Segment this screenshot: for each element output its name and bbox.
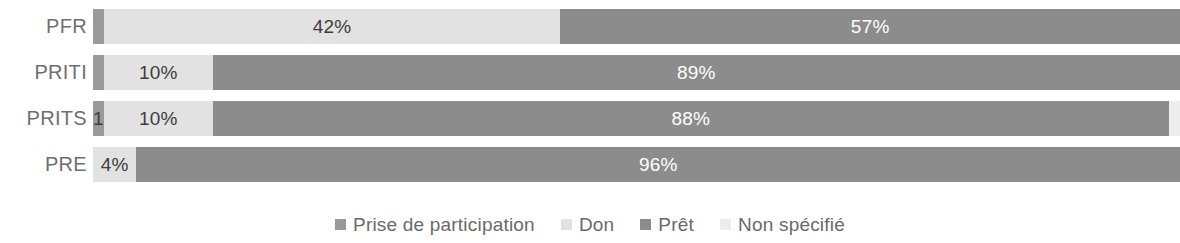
bar-track: 10%89% <box>93 55 1180 90</box>
segment-value-label: 96% <box>639 155 678 174</box>
legend-label: Non spécifié <box>738 215 845 234</box>
segment-value-label: 57% <box>851 17 890 36</box>
legend-swatch-icon <box>561 219 572 230</box>
bar-segment <box>93 55 104 90</box>
bar-track: 42%57% <box>93 9 1180 44</box>
bar-segment: 88% <box>213 101 1170 136</box>
bar-segment <box>93 9 104 44</box>
bar-row: PRITS1%10%88% <box>0 95 1180 141</box>
bar-track: 1%10%88% <box>93 101 1180 136</box>
legend-item[interactable]: Prêt <box>640 215 694 234</box>
bar-row: PFR42%57% <box>0 3 1180 49</box>
chart-plot-area: PFR42%57%PRITI10%89%PRITS1%10%88%PRE4%96… <box>0 0 1180 190</box>
bar-segment <box>1169 101 1180 136</box>
segment-value-label: 89% <box>677 63 716 82</box>
segment-value-label: 88% <box>672 109 711 128</box>
legend-label: Prise de participation <box>353 215 535 234</box>
segment-value-label: 42% <box>313 17 352 36</box>
bar-segment: 57% <box>560 9 1180 44</box>
chart-legend: Prise de participationDonPrêtNon spécifi… <box>0 205 1180 243</box>
bar-segment: 10% <box>104 55 213 90</box>
category-label-pre: PRE <box>0 153 93 176</box>
bar-segment: 4% <box>93 147 136 182</box>
category-label-priti: PRITI <box>0 61 93 84</box>
category-label-pfr: PFR <box>0 15 93 38</box>
legend-item[interactable]: Prise de participation <box>335 215 535 234</box>
segment-value-label: 10% <box>139 63 178 82</box>
bar-segment: 1% <box>93 101 104 136</box>
bar-segment: 89% <box>213 55 1180 90</box>
segment-value-label: 10% <box>139 109 178 128</box>
bar-track: 4%96% <box>93 147 1180 182</box>
bar-segment: 96% <box>136 147 1180 182</box>
legend-swatch-icon <box>640 219 651 230</box>
legend-swatch-icon <box>720 219 731 230</box>
legend-label: Don <box>579 215 614 234</box>
bar-row: PRE4%96% <box>0 141 1180 187</box>
stacked-bar-chart: PFR42%57%PRITI10%89%PRITS1%10%88%PRE4%96… <box>0 0 1180 243</box>
legend-item[interactable]: Non spécifié <box>720 215 845 234</box>
bar-row: PRITI10%89% <box>0 49 1180 95</box>
bar-segment: 10% <box>104 101 213 136</box>
legend-item[interactable]: Don <box>561 215 614 234</box>
legend-label: Prêt <box>658 215 694 234</box>
legend-swatch-icon <box>335 219 346 230</box>
bar-segment: 42% <box>104 9 561 44</box>
category-label-prits: PRITS <box>0 107 93 130</box>
segment-value-label: 4% <box>101 155 129 174</box>
